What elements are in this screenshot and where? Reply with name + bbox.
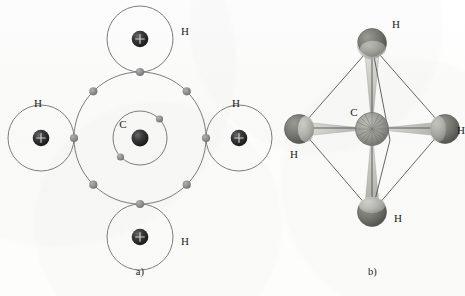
hydrogen-label-top: H <box>392 18 400 30</box>
hydrogen-label-left: H <box>34 97 42 109</box>
bonding-electron-bottom <box>136 200 144 208</box>
hydrogen-nucleus-bottom <box>132 229 149 246</box>
tetrahedral-model-svg: C H H H H <box>280 0 465 296</box>
hydrogen-nucleus-right <box>231 130 248 147</box>
panel-b-tetrahedral-model: C H H H H <box>280 0 465 296</box>
bonding-electron-top <box>136 68 144 76</box>
shell-diagram-svg: C <box>0 0 280 296</box>
methane-structure-figure: C <box>0 0 465 296</box>
hydrogen-nucleus-top <box>132 31 149 48</box>
outer-electron-upper-left <box>89 87 97 95</box>
hydrogen-sphere-top <box>357 29 387 60</box>
hydrogen-label-bottom: H <box>181 235 189 247</box>
hydrogen-sphere-right <box>430 115 460 144</box>
outer-electron-lower-right <box>183 181 191 189</box>
carbon-label: C <box>119 118 126 130</box>
hydrogen-sphere-bottom <box>358 197 387 227</box>
outer-electron-upper-right <box>183 87 191 95</box>
carbon-inner-electron <box>117 153 124 160</box>
outer-electron-lower-left <box>89 181 97 189</box>
carbon-nucleus <box>132 130 149 147</box>
bonding-electron-right <box>202 134 210 142</box>
hydrogen-label-right: H <box>232 97 240 109</box>
hydrogen-sphere-left <box>285 115 315 144</box>
hydrogen-label-right: H <box>457 124 465 136</box>
hydrogen-label-bottom: H <box>394 212 402 224</box>
carbon-inner-electron <box>156 115 163 122</box>
hydrogen-label-top: H <box>181 25 189 37</box>
panel-a-shell-diagram: C <box>0 0 280 296</box>
caption-panel-a: a) <box>0 266 280 277</box>
caption-panel-b: b) <box>280 266 465 277</box>
hydrogen-nucleus-left <box>33 130 50 147</box>
hydrogen-label-left: H <box>290 148 298 160</box>
carbon-label: C <box>350 106 357 118</box>
bonding-electron-left <box>70 134 78 142</box>
